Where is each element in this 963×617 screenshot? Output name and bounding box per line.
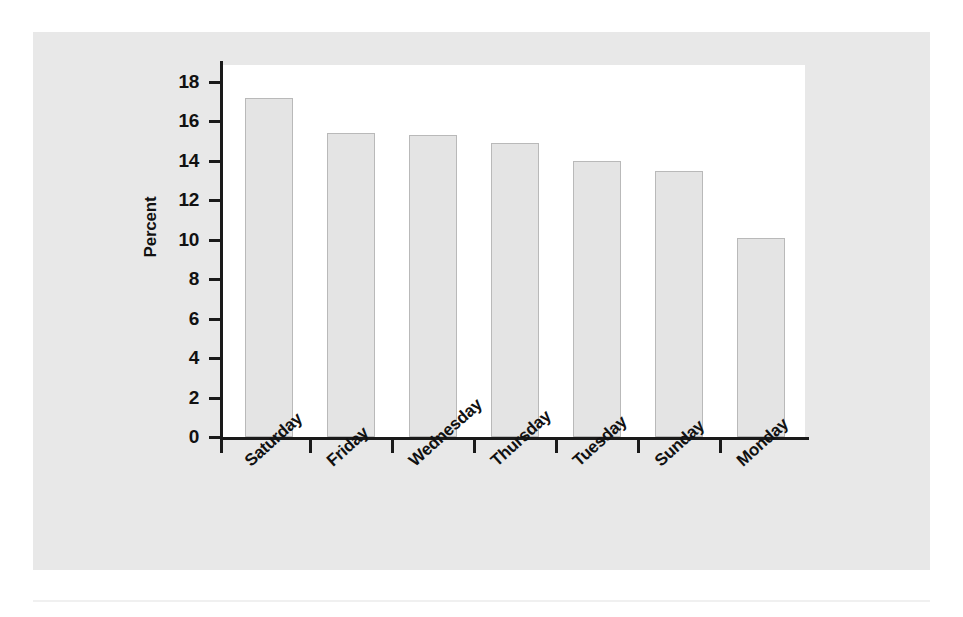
y-axis-tick-label: 14	[159, 151, 199, 170]
y-axis-tick-label: 18	[159, 72, 199, 91]
y-axis-tick	[209, 318, 221, 321]
x-axis-tick	[637, 440, 640, 453]
y-axis-tick	[209, 436, 221, 439]
bar	[245, 98, 293, 437]
figure-panel: Percent 181614121086420 SaturdayFridayWe…	[33, 32, 930, 570]
y-axis-tick-label: 10	[159, 230, 199, 249]
y-axis-tick	[209, 160, 221, 163]
bar	[491, 143, 539, 437]
y-axis-tick-label: 12	[159, 190, 199, 209]
y-axis-tick-label: 6	[159, 309, 199, 328]
bar	[327, 133, 375, 437]
y-axis-tick	[209, 278, 221, 281]
bars-layer	[223, 65, 808, 437]
x-axis-tick	[555, 440, 558, 453]
y-axis-tick-label: 8	[159, 269, 199, 288]
y-axis-tick-label: 0	[159, 427, 199, 446]
bottom-divider	[33, 600, 930, 602]
y-axis-tick-label: 2	[159, 388, 199, 407]
x-axis-tick	[719, 440, 722, 453]
y-axis-tick	[209, 357, 221, 360]
y-axis-tick	[209, 199, 221, 202]
bar	[573, 161, 621, 437]
bar	[409, 135, 457, 437]
y-axis-tick	[209, 397, 221, 400]
x-axis-tick	[473, 440, 476, 453]
x-axis-tick	[309, 440, 312, 453]
bar	[655, 171, 703, 437]
x-axis-tick	[391, 440, 394, 453]
y-axis-tick-label: 16	[159, 111, 199, 130]
bar	[737, 238, 785, 437]
y-axis-tick	[209, 239, 221, 242]
x-axis-tick	[220, 440, 223, 453]
y-axis-tick-label: 4	[159, 348, 199, 367]
y-axis-tick	[209, 120, 221, 123]
y-axis-tick	[209, 81, 221, 84]
